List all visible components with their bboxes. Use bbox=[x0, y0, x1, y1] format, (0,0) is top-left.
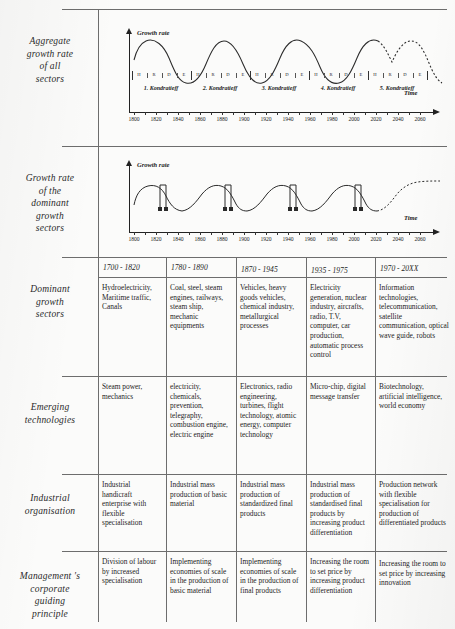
chart-dominant-sector-growth: Growth rate Time bbox=[120, 160, 450, 255]
phase-label: H bbox=[137, 72, 140, 77]
phase-label: D bbox=[285, 72, 288, 77]
row-label-management-guiding-principle: Management 's corporate guiding principl… bbox=[6, 570, 94, 620]
table-cell: Biotechnology, artificial intelligence, … bbox=[376, 381, 452, 471]
period-header: 1780 - 1890 bbox=[167, 261, 235, 272]
divider-period-header bbox=[98, 277, 447, 278]
phase-label: R bbox=[329, 72, 332, 77]
period-header: 1700 - 1820 bbox=[99, 261, 165, 272]
phase-label: E bbox=[360, 72, 363, 77]
x-tick-label: 1800 bbox=[128, 116, 139, 122]
x-tick-label: 1940 bbox=[282, 236, 293, 242]
phase-label: D bbox=[403, 72, 406, 77]
x-tick-label: 1900 bbox=[238, 116, 249, 122]
cycle-label: 3. Kondratieff bbox=[262, 85, 297, 91]
phase-label: H bbox=[373, 72, 376, 77]
row-label-text: Industrial organisation bbox=[25, 493, 76, 516]
x-tick-label: 1940 bbox=[282, 116, 293, 122]
x-tick-label: 2040 bbox=[392, 116, 403, 122]
phase-label: E bbox=[183, 72, 186, 77]
table-cell: Electricity generation, nuclear industry… bbox=[307, 282, 374, 374]
table-cell: Implementing economies of scale in the p… bbox=[237, 556, 305, 620]
row-label-industrial-organisation: Industrial organisation bbox=[6, 492, 94, 517]
phase-label: R bbox=[211, 72, 214, 77]
divider-chart2 bbox=[62, 257, 447, 258]
phase-label: E bbox=[301, 72, 304, 77]
table-cell: Industrial mass production of standardiz… bbox=[237, 479, 305, 549]
phase-label: H bbox=[255, 72, 258, 77]
x-tick-label: 2040 bbox=[392, 236, 403, 242]
table-cell: Increasing the room to set price by incr… bbox=[307, 556, 374, 620]
table-cell: Increasing the room to set price by incr… bbox=[376, 558, 452, 622]
x-tick-label: 1840 bbox=[172, 236, 183, 242]
table-cell: Vehicles, heavy goods vehicles, chemical… bbox=[237, 282, 305, 374]
x-tick-label: 1880 bbox=[216, 236, 227, 242]
phase-label: D bbox=[167, 72, 170, 77]
cycle-label: 4. Kondratieff bbox=[321, 85, 356, 91]
cycle-label: 1. Kondratieff bbox=[144, 85, 179, 91]
x-tick-label: 1920 bbox=[260, 116, 271, 122]
x-tick-label: 1960 bbox=[304, 236, 315, 242]
divider-chart1 bbox=[62, 146, 447, 147]
x-tick-label: 1960 bbox=[304, 116, 315, 122]
table-cell: Information technologies, telecommunicat… bbox=[376, 282, 452, 374]
x-tick-label: 1820 bbox=[150, 116, 161, 122]
table-cell: Electronics, radio engineering, turbines… bbox=[237, 381, 305, 471]
section-label-dominant: Growth rate of the dominant growth secto… bbox=[6, 172, 94, 235]
table-cell: Steam power, mechanics bbox=[99, 381, 165, 471]
table-cell: Implementing economies of scale in the p… bbox=[167, 556, 235, 620]
x-tick-label: 2000 bbox=[348, 116, 359, 122]
divider-row1 bbox=[62, 376, 447, 377]
cycle-label: 5. Kondratieff bbox=[380, 85, 415, 91]
phase-label: H bbox=[196, 72, 199, 77]
x-tick-label: 2020 bbox=[370, 116, 381, 122]
period-header: 1935 - 1975 bbox=[307, 264, 374, 275]
row-label-text: Dominant growth sectors bbox=[30, 284, 70, 319]
table-cell: Industrial mass production of basic mate… bbox=[167, 479, 235, 549]
x-tick-label: 1860 bbox=[194, 236, 205, 242]
x-tick-label: 1880 bbox=[216, 116, 227, 122]
x-tick-label: 2060 bbox=[414, 236, 425, 242]
table-cell: electricity, chemicals, prevention, tele… bbox=[167, 381, 235, 471]
phase-label: R bbox=[388, 72, 391, 77]
phase-label: D bbox=[226, 72, 229, 77]
x-tick-label: 1860 bbox=[194, 116, 205, 122]
x-tick-label: 2020 bbox=[370, 236, 381, 242]
row-label-text: Management 's corporate guiding principl… bbox=[20, 571, 80, 619]
table-cell: Hydroelectricity, Maritime traffic, Cana… bbox=[99, 282, 165, 374]
table-cell: Micro-chip, digital message transfer bbox=[307, 381, 374, 471]
table-cell: Production network with flexible special… bbox=[376, 479, 452, 549]
s-curve-projected bbox=[377, 181, 440, 211]
x-tick-label: 1840 bbox=[172, 116, 183, 122]
row-label-dominant-growth-sectors: Dominant growth sectors bbox=[6, 283, 94, 321]
table-cell: Coal, steel, steam engines, railways, st… bbox=[167, 282, 235, 374]
phase-label: E bbox=[242, 72, 245, 77]
table-cell: Industrial handicraft enterprise with fl… bbox=[99, 479, 165, 549]
divider-top bbox=[62, 9, 447, 10]
row-label-emerging-technologies: Emerging technologies bbox=[6, 401, 94, 426]
divider-row2 bbox=[62, 474, 447, 475]
period-header: 1870 - 1945 bbox=[237, 263, 305, 274]
section-label-dominant-text: Growth rate of the dominant growth secto… bbox=[26, 173, 75, 233]
phase-band: H R D E H R D E H R D E H R D E H R D E bbox=[132, 71, 442, 80]
x-tick-label: 2000 bbox=[348, 236, 359, 242]
phase-label: R bbox=[270, 72, 273, 77]
phase-label: R bbox=[152, 72, 155, 77]
x-tick-label: 1820 bbox=[150, 236, 161, 242]
document-page: Aggregate growth rate of all sectors Gro… bbox=[0, 0, 455, 629]
phase-label: E bbox=[419, 72, 422, 77]
table-cell: Division of labour by increased speciali… bbox=[99, 556, 165, 620]
x-tick-label: 1920 bbox=[260, 236, 271, 242]
x-tick-label: 1900 bbox=[238, 236, 249, 242]
divider-row3 bbox=[62, 551, 447, 552]
section-label-aggregate-text: Aggregate growth rate of all sectors bbox=[27, 36, 73, 84]
x-tick-label: 2060 bbox=[414, 116, 425, 122]
chart-aggregate-growth-rate: Growth rate Time H R D E H R D bbox=[120, 28, 450, 128]
phase-label: H bbox=[314, 72, 317, 77]
phase-label: D bbox=[344, 72, 347, 77]
table-cell: Industrial mass production of standardis… bbox=[307, 479, 374, 549]
x-tick-label: 1980 bbox=[326, 236, 337, 242]
period-header: 1970 - 20XX bbox=[376, 262, 452, 273]
row-label-text: Emerging technologies bbox=[25, 402, 75, 425]
x-tick-label: 1800 bbox=[128, 236, 139, 242]
section-label-aggregate: Aggregate growth rate of all sectors bbox=[6, 35, 94, 85]
